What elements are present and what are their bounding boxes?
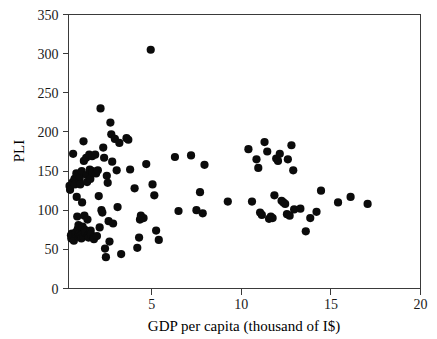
data-point bbox=[248, 198, 256, 206]
data-point bbox=[258, 211, 266, 219]
plot-svg: 050100150200250300350 5101520 GDP per ca… bbox=[0, 0, 437, 339]
y-tick-label: 0 bbox=[52, 282, 59, 297]
data-point bbox=[306, 214, 314, 222]
data-point bbox=[147, 46, 155, 54]
data-point bbox=[174, 207, 182, 215]
data-point bbox=[289, 166, 297, 174]
data-point bbox=[96, 104, 104, 112]
data-point bbox=[102, 253, 110, 261]
data-points-layer bbox=[65, 46, 371, 262]
data-point bbox=[113, 166, 121, 174]
y-tick-label: 250 bbox=[38, 86, 59, 101]
scatter-chart-figure: 050100150200250300350 5101520 GDP per ca… bbox=[0, 0, 437, 339]
data-point bbox=[296, 205, 304, 213]
data-point bbox=[302, 227, 310, 235]
data-point bbox=[69, 150, 77, 158]
data-point bbox=[287, 141, 295, 149]
data-point bbox=[224, 198, 232, 206]
data-point bbox=[244, 145, 252, 153]
y-tick-label: 300 bbox=[38, 47, 59, 62]
y-tick-label: 50 bbox=[45, 242, 59, 257]
data-point bbox=[281, 200, 289, 208]
x-tick-label: 10 bbox=[234, 297, 248, 312]
y-axis: 050100150200250300350 bbox=[38, 8, 69, 297]
y-tick-label: 100 bbox=[38, 203, 59, 218]
y-tick-label: 150 bbox=[38, 164, 59, 179]
plot-frame bbox=[69, 15, 421, 289]
data-point bbox=[83, 216, 91, 224]
data-point bbox=[346, 193, 354, 201]
data-point bbox=[142, 160, 150, 168]
data-point bbox=[155, 236, 163, 244]
data-point bbox=[105, 237, 113, 245]
data-point bbox=[79, 137, 87, 145]
data-point bbox=[113, 203, 121, 211]
data-point bbox=[260, 138, 268, 146]
x-tick-label: 20 bbox=[414, 297, 428, 312]
data-point bbox=[270, 191, 278, 199]
data-point bbox=[126, 165, 134, 173]
data-point bbox=[187, 151, 195, 159]
data-point bbox=[200, 161, 208, 169]
x-tick-label: 15 bbox=[324, 297, 338, 312]
data-point bbox=[94, 166, 102, 174]
x-axis-title: GDP per capita (thousand of I$) bbox=[148, 318, 340, 335]
data-point bbox=[150, 191, 158, 199]
data-point bbox=[269, 214, 277, 222]
data-point bbox=[109, 219, 117, 227]
data-point bbox=[171, 153, 179, 161]
data-point bbox=[252, 155, 260, 163]
data-point bbox=[135, 234, 143, 242]
data-point bbox=[317, 187, 325, 195]
data-point bbox=[100, 154, 108, 162]
data-point bbox=[152, 226, 160, 234]
data-point bbox=[104, 179, 112, 187]
data-point bbox=[115, 139, 123, 147]
data-point bbox=[91, 151, 99, 159]
data-point bbox=[274, 157, 282, 165]
data-point bbox=[139, 214, 147, 222]
data-point bbox=[148, 180, 156, 188]
y-axis-title: PLI bbox=[11, 140, 27, 163]
data-point bbox=[263, 147, 271, 155]
data-point bbox=[103, 172, 111, 180]
data-point bbox=[124, 136, 132, 144]
data-point bbox=[95, 192, 103, 200]
y-tick-label: 200 bbox=[38, 125, 59, 140]
data-point bbox=[106, 118, 114, 126]
data-point bbox=[93, 232, 101, 240]
data-point bbox=[98, 208, 106, 216]
x-tick-label: 5 bbox=[148, 297, 155, 312]
data-point bbox=[334, 198, 342, 206]
data-point bbox=[284, 155, 292, 163]
data-point bbox=[131, 184, 139, 192]
data-point bbox=[78, 198, 86, 206]
data-point bbox=[99, 143, 107, 151]
data-point bbox=[96, 223, 104, 231]
data-point bbox=[73, 212, 81, 220]
data-point bbox=[276, 150, 284, 158]
data-point bbox=[312, 208, 320, 216]
y-tick-label: 350 bbox=[38, 8, 59, 23]
x-axis: 5101520 bbox=[148, 289, 427, 312]
data-point bbox=[133, 244, 141, 252]
data-point bbox=[254, 164, 262, 172]
data-point bbox=[364, 200, 372, 208]
data-point bbox=[101, 244, 109, 252]
data-point bbox=[199, 209, 207, 217]
data-point bbox=[108, 158, 116, 166]
data-point bbox=[196, 188, 204, 196]
data-point bbox=[117, 250, 125, 258]
plot-frame-box bbox=[69, 15, 421, 289]
